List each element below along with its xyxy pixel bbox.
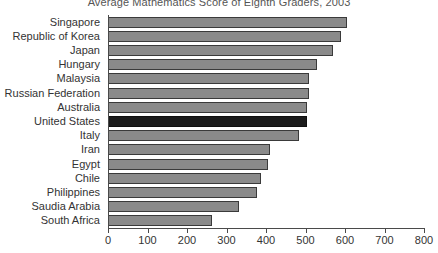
bar [108,59,317,70]
x-axis-tick-label: 700 [375,234,393,246]
bar [108,173,261,184]
bar-row [108,86,424,100]
x-axis-tick-mark [385,229,386,233]
bar [108,159,268,170]
bar-series [108,15,424,228]
category-label: South Africa [0,214,104,228]
bar [108,215,212,226]
x-axis-tick-label: 300 [217,234,235,246]
bar [108,45,333,56]
category-label: United States [0,114,104,128]
bar [108,201,239,212]
category-label: Malaysia [0,72,104,86]
category-label: Iran [0,143,104,157]
bar-row [108,200,424,214]
category-label: Italy [0,129,104,143]
category-label: Hungary [0,58,104,72]
x-axis-tick-mark [266,229,267,233]
x-axis-tick-label: 500 [296,234,314,246]
bar [108,88,309,99]
bar-chart: Average Mathematics Score of Eighth Grad… [0,0,438,253]
bar-row [108,58,424,72]
bar-row [108,214,424,228]
bar-row [108,43,424,57]
bar [108,102,307,113]
bar-row [108,100,424,114]
category-label: Japan [0,43,104,57]
x-axis-tick-mark [108,229,109,233]
category-label: Republic of Korea [0,29,104,43]
bar-row [108,185,424,199]
x-axis-tick-label: 0 [105,234,111,246]
bar-row [108,157,424,171]
bar [108,17,347,28]
x-axis-tick-mark [306,229,307,233]
bar [108,130,299,141]
category-label: Philippines [0,185,104,199]
x-axis-tick-label: 200 [178,234,196,246]
x-axis-tick-label: 400 [257,234,275,246]
category-label: Singapore [0,15,104,29]
category-label: Australia [0,100,104,114]
chart-title: Average Mathematics Score of Eighth Grad… [0,0,438,8]
x-axis-tick-label: 100 [138,234,156,246]
bar-row [108,171,424,185]
x-axis-tick-mark [424,229,425,233]
x-axis-tick-mark [148,229,149,233]
bar [108,73,309,84]
bar [108,144,270,155]
bar-row [108,15,424,29]
x-axis-tick-label: 600 [336,234,354,246]
bar-row [108,143,424,157]
bar-row [108,129,424,143]
category-label: Saudia Arabia [0,200,104,214]
bar-row [108,114,424,128]
x-axis-tick-mark [227,229,228,233]
bar [108,31,341,42]
bar [108,187,257,198]
y-axis-line [108,15,109,229]
bar-row [108,72,424,86]
bar [108,116,307,127]
category-label: Egypt [0,157,104,171]
category-label: Russian Federation [0,86,104,100]
category-label: Chile [0,171,104,185]
x-axis-tick-mark [345,229,346,233]
y-axis-category-labels: SingaporeRepublic of KoreaJapanHungaryMa… [0,15,104,228]
x-axis-tick-label: 800 [415,234,433,246]
plot-area [108,15,424,228]
bar-row [108,29,424,43]
x-axis-tick-mark [187,229,188,233]
